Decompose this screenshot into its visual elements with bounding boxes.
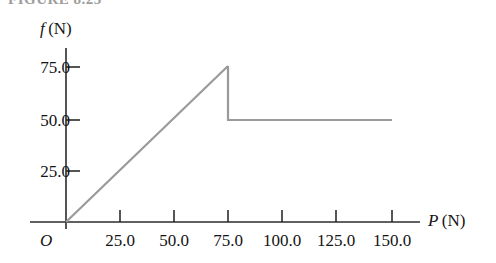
plot-canvas — [0, 0, 496, 263]
x-tick-label-25: 25.0 — [90, 232, 150, 249]
y-tick-label-75: 75.0 — [18, 59, 70, 76]
curve-static-friction-ramp — [66, 66, 228, 222]
friction-force-figure: FIGURE 8.25 75.0 50.0 — [0, 0, 496, 263]
friction-curve — [66, 66, 392, 222]
y-axis-unit: (N) — [48, 19, 72, 38]
y-tick-label-50: 50.0 — [18, 112, 70, 129]
y-tick-label-25: 25.0 — [18, 163, 70, 180]
x-axis-symbol: P — [428, 211, 438, 230]
x-axis-unit: (N) — [442, 211, 466, 230]
x-tick-label-50: 50.0 — [144, 232, 204, 249]
x-axis-ticks — [120, 210, 392, 222]
x-tick-label-150: 150.0 — [359, 232, 425, 249]
y-axis-title: f (N) — [40, 20, 72, 37]
x-axis-title: P (N) — [428, 212, 465, 229]
origin-label: O — [40, 232, 52, 249]
